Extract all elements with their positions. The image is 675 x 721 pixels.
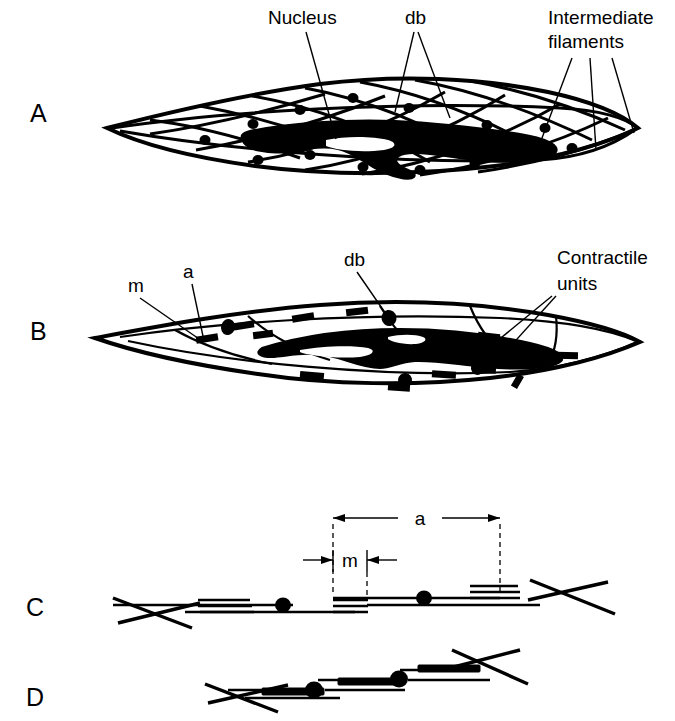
label-contractile-units-line1: Contractile: [557, 247, 648, 268]
dense-bodies-c: [275, 591, 432, 613]
panel-a-group: [107, 32, 638, 179]
panel-letter-c: C: [26, 593, 44, 621]
label-intermediate-filaments-line2: filaments: [548, 31, 624, 52]
myosin-group-c-3: [470, 586, 520, 598]
label-dimension-a: a: [415, 508, 426, 529]
arrow-a-left: [333, 514, 345, 522]
panel-c-group: [113, 514, 615, 628]
panel-d-group: [205, 650, 528, 712]
panel-letter-b: B: [30, 317, 47, 345]
label-contractile-units-line2: units: [557, 273, 597, 294]
panel-letter-d: D: [26, 683, 44, 711]
label-dimension-m: m: [342, 550, 358, 571]
panel-letter-a: A: [30, 99, 47, 127]
myosin-group-c-2: [333, 600, 368, 612]
label-db-panel-b: db: [344, 249, 365, 270]
label-a-panel-b: a: [183, 261, 194, 282]
arrow-m-left: [321, 556, 333, 564]
label-intermediate-filaments-line1: Intermediate: [548, 7, 654, 28]
label-nucleus: Nucleus: [268, 7, 337, 28]
label-db-panel-a: db: [405, 7, 426, 28]
oblique-filaments-c-right: [528, 580, 615, 614]
label-m-panel-b: m: [128, 275, 144, 296]
arrow-a-right: [488, 514, 500, 522]
myosin-group-c-1: [198, 600, 254, 612]
arrow-m-right: [367, 556, 379, 564]
diagram-canvas: A B C D Nucleus db Intermediate filament…: [0, 0, 675, 721]
figure-root: A B C D Nucleus db Intermediate filament…: [0, 0, 675, 721]
